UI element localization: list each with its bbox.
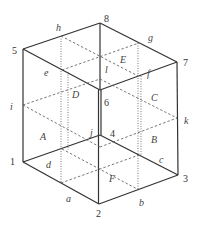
edge-label-g: g — [148, 32, 153, 43]
edge-label-j: j — [88, 127, 93, 138]
vertex-label-3: 3 — [183, 173, 188, 184]
edge-8-7 — [100, 23, 177, 62]
midline-i-l — [23, 79, 100, 105]
edge-label-a: a — [66, 193, 71, 204]
face-label-B: B — [151, 134, 157, 145]
face-label-C: C — [151, 92, 158, 103]
cube-diagram: 1 2 3 4 5 6 7 8 a b c d e f g h i j k l … — [0, 0, 202, 229]
vertex-label-1: 1 — [10, 156, 15, 167]
edge-1-4 — [23, 135, 100, 162]
edge-label-k: k — [184, 115, 189, 126]
edge-label-e: e — [44, 67, 49, 78]
vertex-label-7: 7 — [183, 57, 188, 68]
edge-label-b: b — [139, 197, 144, 208]
vertex-label-4: 4 — [110, 128, 115, 139]
vertex-label-2: 2 — [96, 208, 101, 219]
edge-label-d: d — [46, 159, 52, 170]
midline-i-j — [23, 105, 100, 147]
edge-label-h: h — [56, 22, 61, 33]
midline-d-b — [62, 149, 139, 190]
face-label-E: E — [119, 54, 126, 65]
edge-5-6 — [23, 49, 100, 90]
midline-l-k — [100, 79, 177, 118]
edge-label-c: c — [159, 154, 164, 165]
edge-7-3 — [177, 62, 178, 175]
vertex-label-6: 6 — [104, 97, 109, 108]
face-label-F: F — [108, 173, 116, 184]
face-label-D: D — [71, 89, 80, 100]
edge-label-f: f — [147, 68, 151, 79]
edge-6-7 — [100, 62, 177, 90]
edge-label-l: l — [105, 64, 108, 75]
edge-label-i: i — [10, 101, 13, 112]
vertex-label-8: 8 — [104, 13, 109, 24]
vertex-label-5: 5 — [12, 45, 17, 56]
face-label-A: A — [39, 131, 47, 142]
cube-edges — [23, 23, 178, 204]
